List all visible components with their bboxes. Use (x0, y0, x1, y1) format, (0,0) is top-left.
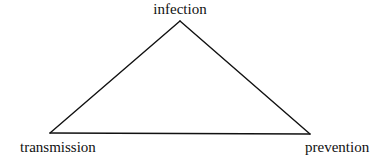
node-label-transmission: transmission (20, 139, 96, 155)
edge-transmission-prevention (50, 133, 310, 134)
node-label-prevention: prevention (305, 139, 369, 155)
edge-prevention-infection (180, 21, 310, 134)
edge-infection-transmission (50, 21, 180, 133)
node-label-infection: infection (153, 1, 206, 17)
triangle-shape (0, 0, 379, 161)
